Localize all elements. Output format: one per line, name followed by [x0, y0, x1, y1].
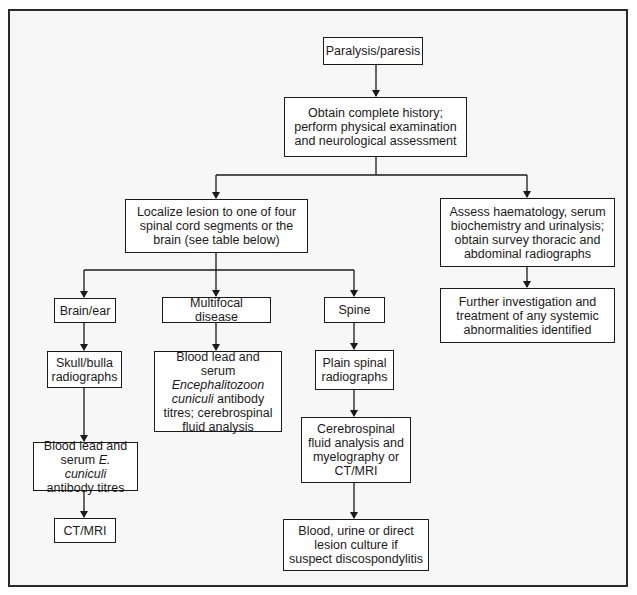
node-label: Skull/bulla — [52, 356, 118, 370]
node-label: abdominal radiographs — [449, 247, 605, 261]
node-label: obtain survey thoracic and — [449, 233, 605, 247]
node-label: radiographs — [321, 370, 387, 384]
node-label: Further investigation and — [456, 295, 598, 309]
node-label: Cerebrospinal — [308, 422, 404, 436]
node-brain-ear: Brain/ear — [54, 298, 116, 323]
node-culture-discospondylitis: Blood, urine or direct lesion culture if… — [283, 519, 429, 571]
node-skull-bulla-radiographs: Skull/bulla radiographs — [47, 351, 122, 388]
node-label: abnormalities identified — [456, 323, 598, 337]
node-assess-haematology: Assess haematology, serum biochemistry a… — [440, 198, 615, 267]
organism-name: Encephalitozoon — [172, 378, 264, 392]
node-label: Blood lead and — [38, 439, 133, 453]
node-multifocal-disease: Multifocal disease — [162, 297, 271, 323]
node-localize-lesion: Localize lesion to one of four spinal co… — [125, 199, 308, 253]
node-obtain-history: Obtain complete history; perform physica… — [284, 97, 467, 157]
node-label: biochemistry and urinalysis; — [449, 219, 605, 233]
node-label: antibody titres — [38, 481, 133, 495]
node-label: CT/MRI — [63, 524, 106, 538]
node-paralysis-paresis: Paralysis/paresis — [323, 37, 423, 65]
node-label: Paralysis/paresis — [326, 44, 420, 58]
node-label: Multifocal disease — [167, 296, 266, 324]
node-multifocal-blood-lead-csf: Blood lead and serum Encephalitozoon cun… — [154, 351, 282, 432]
node-label: Obtain complete history; — [294, 106, 457, 120]
node-ct-mri: CT/MRI — [54, 518, 116, 543]
node-label: fluid analysis and — [308, 436, 404, 450]
node-label: radiographs — [52, 370, 118, 384]
node-further-investigation: Further investigation and treatment of a… — [440, 288, 615, 343]
node-spine: Spine — [324, 297, 385, 323]
node-label: Assess haematology, serum — [449, 205, 605, 219]
node-label: Blood, urine or direct — [289, 524, 423, 538]
organism-name: cuniculi — [172, 392, 214, 406]
node-label: CT/MRI — [308, 464, 404, 478]
node-label: titres; cerebrospinal — [159, 406, 277, 420]
node-label: myelography or — [308, 450, 404, 464]
node-label: Plain spinal — [321, 356, 387, 370]
node-label: perform physical examination — [294, 120, 457, 134]
node-label: brain (see table below) — [137, 233, 296, 247]
node-label: Brain/ear — [60, 304, 111, 318]
node-csf-myelography: Cerebrospinal fluid analysis and myelogr… — [301, 417, 411, 483]
node-label: Blood lead and serum — [159, 350, 277, 378]
node-label: lesion culture if — [289, 538, 423, 552]
node-label: Spine — [339, 303, 371, 317]
node-label: and neurological assessment — [294, 134, 457, 148]
node-label: antibody — [213, 392, 264, 406]
node-label: spinal cord segments or the — [137, 219, 296, 233]
node-plain-spinal-radiographs: Plain spinal radiographs — [315, 350, 394, 390]
node-brain-blood-lead-serum: Blood lead and serum E. cuniculi antibod… — [33, 442, 138, 491]
node-label: fluid analysis — [159, 420, 277, 434]
node-label: treatment of any systemic — [456, 309, 598, 323]
node-label: suspect discospondylitis — [289, 552, 423, 566]
node-label: Localize lesion to one of four — [137, 205, 296, 219]
node-label: serum — [60, 453, 98, 467]
